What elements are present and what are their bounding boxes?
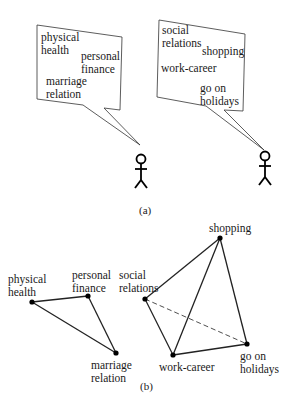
edge-shopping-work-career [173,238,220,355]
edge-social-relations-go-on-holidays [145,299,247,344]
bubble-label: physical health [41,31,79,57]
caption-b: (b) [140,380,153,392]
bubble-label: work-career [161,62,217,75]
bubble-label: shopping [202,45,244,58]
caption-a: (a) [139,204,151,216]
node-label-shopping: shopping [209,222,251,235]
edge-social-relations-work-career [145,299,173,355]
bubble-label: social relations [162,24,202,50]
node-work-career [170,352,175,357]
person-icon-right [259,152,271,186]
node-label-physical-health: physical health [8,273,46,299]
node-label-go-on-holidays: go on holidays [240,350,279,376]
node-shopping [217,235,222,240]
node-label-marriage-relation: marriage relation [91,359,132,385]
edge-shopping-go-on-holidays [220,238,247,344]
node-label-work-career: work-career [159,361,215,374]
bubble-label: marriage relation [46,75,87,101]
node-label-personal-finance: personal finance [72,269,111,295]
node-marriage-relation [113,350,118,355]
person-icon-left [135,155,147,189]
graph-edges [32,238,247,355]
node-go-on-holidays [244,341,249,346]
node-social-relations [142,296,147,301]
bubble-label: personal finance [81,50,120,76]
node-physical-health [29,299,34,304]
edge-work-career-go-on-holidays [173,344,247,355]
graph-nodes [29,235,249,357]
node-label-social-relations: social relations [119,269,159,295]
bubble-label: go on holidays [200,82,239,108]
